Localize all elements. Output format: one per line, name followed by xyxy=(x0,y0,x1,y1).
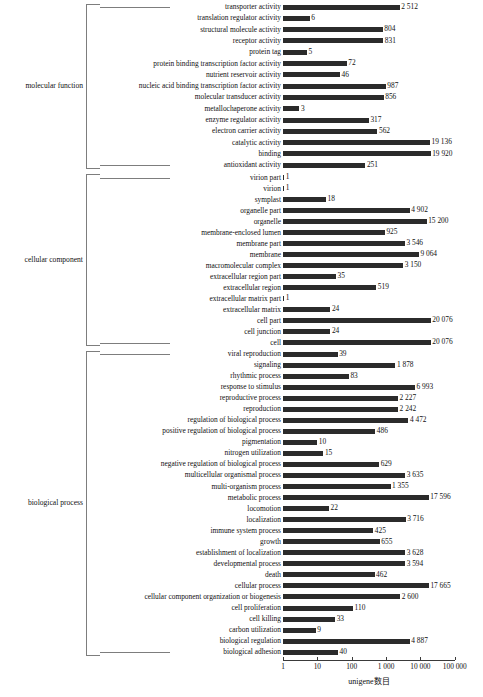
category-label: membrane part xyxy=(236,240,281,247)
bar xyxy=(283,594,400,599)
category-label: carbon utilization xyxy=(229,626,281,633)
bar xyxy=(283,583,429,588)
bar-value-label: 251 xyxy=(367,161,378,168)
category-label: nutrient reservoir activity xyxy=(206,71,281,78)
category-label: molecular transducer activity xyxy=(195,93,281,100)
category-label: pigmentation xyxy=(242,438,281,445)
bar-value-label: 18 xyxy=(328,195,335,202)
bar xyxy=(283,129,377,134)
bar xyxy=(283,374,349,379)
bar-value-label: 3 xyxy=(301,105,305,112)
bar-value-label: 6 xyxy=(311,14,315,21)
bar-value-label: 519 xyxy=(378,283,389,290)
bar xyxy=(283,451,323,456)
category-label: organelle part xyxy=(240,207,281,214)
bar-value-label: 2 227 xyxy=(399,394,416,401)
category-label: cell part xyxy=(257,317,281,324)
category-label: cellular process xyxy=(235,582,281,589)
category-label: receptor activity xyxy=(233,37,281,44)
bar-value-label: 24 xyxy=(332,305,339,312)
bar-value-label: 83 xyxy=(350,372,357,379)
category-label: cell xyxy=(270,339,281,346)
bar xyxy=(283,650,338,655)
bar xyxy=(283,5,400,10)
bar-value-label: 804 xyxy=(384,25,395,32)
bar xyxy=(283,628,316,633)
bar xyxy=(283,407,398,412)
bar-value-label: 35 xyxy=(338,272,345,279)
bar-value-label: 22 xyxy=(331,504,338,511)
bar xyxy=(283,285,376,290)
bar xyxy=(283,50,307,55)
x-axis-tick-label: 10 xyxy=(314,663,321,670)
bar-value-label: 1 878 xyxy=(397,361,414,368)
bar xyxy=(283,418,408,423)
bar-value-label: 17 665 xyxy=(430,582,450,589)
bar-value-label: 987 xyxy=(387,82,398,89)
category-label: enzyme regulator activity xyxy=(205,116,281,123)
category-label: organelle xyxy=(254,218,281,225)
bar xyxy=(283,38,383,43)
category-label: macromolecular complex xyxy=(206,262,281,269)
bar xyxy=(283,539,380,544)
bar xyxy=(283,329,330,334)
group-bracket-2 xyxy=(86,351,100,656)
category-label: extracellular matrix xyxy=(223,306,281,313)
bar xyxy=(283,197,326,202)
bar xyxy=(283,528,373,533)
bar xyxy=(283,27,383,32)
x-axis-tick-label: 1 xyxy=(281,663,285,670)
category-label: cell killing xyxy=(249,615,281,622)
bar-value-label: 4 472 xyxy=(410,416,427,423)
bar xyxy=(283,175,284,180)
bar xyxy=(283,252,419,257)
bar xyxy=(283,84,386,89)
bar xyxy=(283,151,431,156)
bar-value-label: 425 xyxy=(375,527,386,534)
bar xyxy=(283,140,430,145)
category-label: metabolic process xyxy=(228,494,281,501)
category-label: positive regulation of biological proces… xyxy=(162,427,281,434)
bar xyxy=(283,274,336,279)
bar xyxy=(283,318,431,323)
bar-value-label: 10 xyxy=(319,438,326,445)
bar-value-label: 856 xyxy=(385,93,396,100)
bar xyxy=(283,208,410,213)
category-label: nucleic acid binding transcription facto… xyxy=(139,82,281,89)
bar xyxy=(283,484,391,489)
category-label: cell proliferation xyxy=(232,604,281,611)
bracket-leader-0-1 xyxy=(100,165,170,166)
bar-value-label: 39 xyxy=(339,350,346,357)
bar-value-label: 1 355 xyxy=(392,482,409,489)
x-axis-tick xyxy=(317,657,318,660)
bar-value-label: 3 628 xyxy=(407,549,424,556)
bar-value-label: 15 200 xyxy=(428,217,448,224)
bar-value-label: 33 xyxy=(337,615,344,622)
bar xyxy=(283,550,405,555)
bar xyxy=(283,163,365,168)
category-label: regulation of biological process xyxy=(188,416,281,423)
category-label: virion xyxy=(263,185,281,192)
bar-value-label: 2 242 xyxy=(400,405,417,412)
bar xyxy=(283,296,284,301)
x-axis-tick xyxy=(352,657,353,660)
category-label: virion part xyxy=(250,174,281,181)
bar-value-label: 72 xyxy=(348,59,355,66)
category-label: viral reproduction xyxy=(228,350,281,357)
bar xyxy=(283,506,329,511)
bar xyxy=(283,16,310,21)
category-label: membrane-enclosed lumen xyxy=(201,229,281,236)
category-label: cell junction xyxy=(244,328,281,335)
bar-value-label: 1 xyxy=(286,294,290,301)
bracket-leader-0-0 xyxy=(100,7,170,8)
category-label: negative regulation of biological proces… xyxy=(161,460,281,467)
bar-value-label: 9 xyxy=(317,626,321,633)
bar-value-label: 9 064 xyxy=(420,250,437,257)
category-label: extracellular region part xyxy=(210,273,281,280)
bar xyxy=(283,396,398,401)
x-axis-tick-label: 100 000 xyxy=(443,663,467,670)
bar xyxy=(283,462,379,467)
category-label: protein binding transcription factor act… xyxy=(153,60,281,67)
bar-value-label: 5 xyxy=(309,48,313,55)
bar-value-label: 462 xyxy=(376,571,387,578)
